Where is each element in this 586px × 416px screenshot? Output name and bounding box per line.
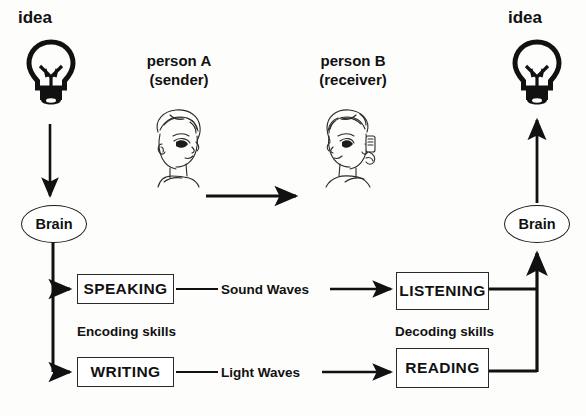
brain-node-right: Brain xyxy=(504,205,570,243)
person-b-role: (receiver) xyxy=(300,71,406,89)
lightbulb-icon-right xyxy=(508,38,566,108)
person-a-role: (sender) xyxy=(133,71,225,89)
box-listening[interactable]: LISTENING xyxy=(396,272,489,310)
encoding-skills-label: Encoding skills xyxy=(77,324,176,340)
person-b-name: person B xyxy=(300,52,406,70)
person-b-face-icon xyxy=(312,106,388,188)
diagram-connectors xyxy=(0,0,586,416)
brain-node-left: Brain xyxy=(21,205,87,243)
person-a-face-icon xyxy=(140,106,216,188)
box-speaking[interactable]: SPEAKING xyxy=(77,274,174,304)
box-reading[interactable]: READING xyxy=(396,348,489,388)
box-writing[interactable]: WRITING xyxy=(77,357,174,387)
decoding-skills-label: Decoding skills xyxy=(395,324,494,340)
person-a-name: person A xyxy=(133,52,225,70)
channel-label-sound-waves: Sound Waves xyxy=(221,282,309,298)
communication-diagram: idea Brain person A (sender) xyxy=(0,0,586,416)
channel-label-light-waves: Light Waves xyxy=(221,365,300,381)
lightbulb-icon-left xyxy=(22,38,80,108)
idea-label-right: idea xyxy=(508,8,542,28)
idea-label-left: idea xyxy=(18,8,52,28)
